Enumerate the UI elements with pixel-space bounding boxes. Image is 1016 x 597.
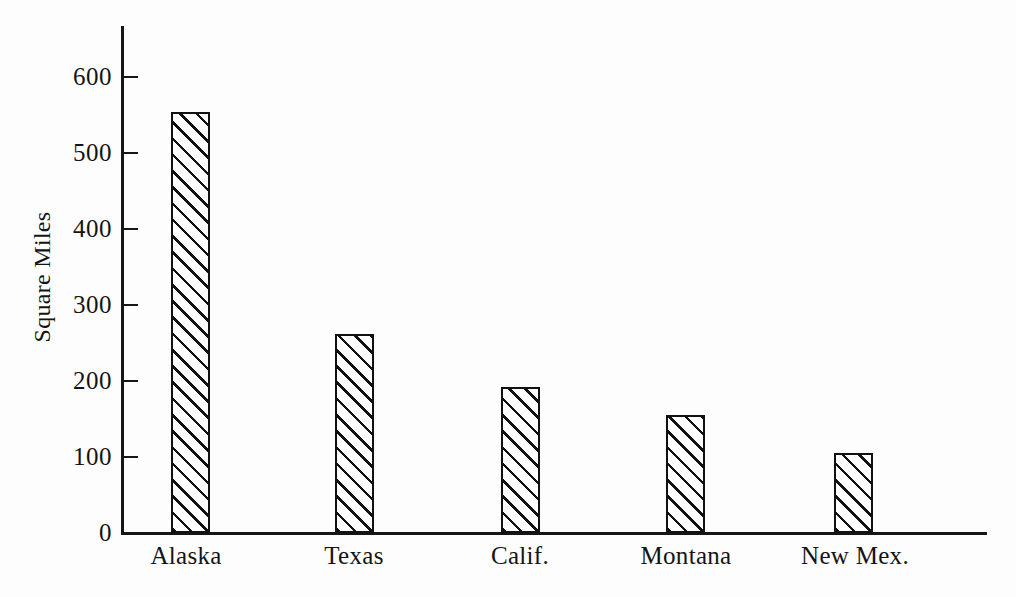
y-tick-label-100-wrap: 100 bbox=[0, 444, 112, 469]
bar-texas bbox=[335, 334, 374, 534]
x-tick-label-montana: Montana bbox=[641, 542, 732, 570]
y-tick-label-600-wrap: 600 bbox=[0, 64, 112, 89]
y-tick-mark-200 bbox=[123, 380, 138, 382]
bar-calif bbox=[501, 387, 540, 533]
y-tick-label-0-wrap: 0 bbox=[0, 520, 112, 545]
bar-alaska bbox=[171, 112, 210, 533]
y-tick-mark-500 bbox=[123, 152, 138, 154]
y-tick-label-400-wrap: 400 bbox=[0, 216, 112, 241]
x-tick-label-new-mex: New Mex. bbox=[801, 542, 909, 570]
y-tick-label-600: 600 bbox=[73, 64, 112, 89]
y-tick-mark-400 bbox=[123, 228, 138, 230]
y-tick-label-300: 300 bbox=[73, 292, 112, 317]
y-tick-label-500-wrap: 500 bbox=[0, 140, 112, 165]
y-tick-label-200-wrap: 200 bbox=[0, 368, 112, 393]
bar-montana bbox=[666, 415, 705, 534]
x-tick-label-alaska: Alaska bbox=[150, 542, 221, 570]
y-tick-label-400: 400 bbox=[73, 216, 112, 241]
y-tick-label-500: 500 bbox=[73, 140, 112, 165]
y-axis-line bbox=[121, 26, 124, 535]
y-tick-mark-300 bbox=[123, 304, 138, 306]
y-tick-label-100: 100 bbox=[73, 444, 112, 469]
bar-new-mex bbox=[834, 453, 873, 534]
y-tick-label-0: 0 bbox=[99, 520, 112, 545]
y-tick-label-300-wrap: 300 bbox=[0, 292, 112, 317]
bar-chart: Square Miles 600 500 400 300 200 100 0 A… bbox=[0, 0, 1016, 597]
x-tick-label-texas: Texas bbox=[324, 542, 383, 570]
y-tick-mark-600 bbox=[123, 76, 138, 78]
y-tick-mark-100 bbox=[123, 456, 138, 458]
x-tick-label-calif: Calif. bbox=[491, 542, 549, 570]
y-tick-label-200: 200 bbox=[73, 368, 112, 393]
